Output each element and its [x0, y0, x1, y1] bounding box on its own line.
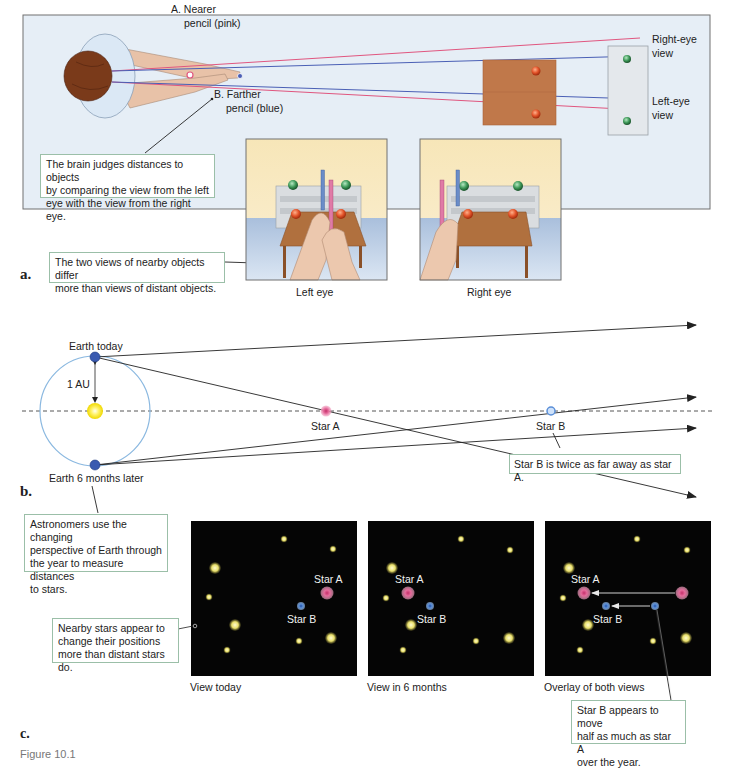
earth-later-icon — [90, 460, 100, 470]
earth-later-label: Earth 6 months later — [49, 472, 144, 485]
callout-line: half as much as star A — [577, 730, 680, 756]
star-b-moves-callout: Star B appears to move half as much as s… — [571, 700, 686, 744]
callout-line: over the year. — [577, 756, 680, 769]
green-ball-icon — [623, 117, 631, 125]
callout-line: more than distant stars do. — [58, 648, 173, 674]
callout-line: eye with the view from the right eye. — [46, 197, 209, 223]
view-6-months-star-a-label: Star A — [395, 573, 424, 586]
view-6-months-caption: View in 6 months — [367, 681, 447, 694]
panel-b-letter: b. — [20, 483, 32, 500]
nearer-pencil-label-line1: A. Nearer — [171, 3, 216, 16]
callout-line: Nearby stars appear to — [58, 622, 173, 635]
au-label: 1 AU — [67, 378, 90, 391]
callout-line: Star B is twice as far away as star A. — [514, 458, 676, 484]
red-ball-icon — [532, 110, 541, 119]
callout-line: perspective of Earth through — [30, 544, 162, 557]
star-a-icon — [321, 406, 332, 417]
view-today-star-a-label: Star A — [314, 573, 343, 586]
left-eye-view-illustration — [246, 139, 387, 280]
farther-pencil-label-line2: pencil (blue) — [226, 102, 283, 115]
two-views-callout: The two views of nearby objects differ m… — [49, 252, 225, 283]
overlay-caption: Overlay of both views — [544, 681, 644, 694]
view-today-caption: View today — [190, 681, 241, 694]
farther-pencil-label-line1: B. Farther — [214, 88, 261, 101]
sky-overlay — [545, 521, 711, 676]
nearer-pencil-label-line2: pencil (pink) — [184, 17, 241, 30]
green-ball-icon — [623, 55, 631, 63]
astronomers-callout: Astronomers use the changing perspective… — [24, 514, 168, 572]
star-b-label: Star B — [536, 420, 565, 433]
callout-line: Astronomers use the changing — [30, 518, 162, 544]
red-ball-icon — [532, 67, 541, 76]
sun-icon — [87, 403, 103, 419]
callout-line: by comparing the view from the left — [46, 184, 209, 197]
callout-line: more than views of distant objects. — [55, 282, 219, 295]
callout-line: to stars. — [30, 583, 162, 596]
earth-today-label: Earth today — [69, 340, 123, 353]
right-eye-view-label-line2: view — [652, 47, 673, 60]
view-6-months-star-b-label: Star B — [417, 613, 446, 626]
figure-caption: Figure 10.1 — [20, 748, 76, 760]
brain-judges-callout: The brain judges distances to objects by… — [40, 154, 215, 198]
farther-pencil-dot — [238, 74, 243, 79]
sky-view-today — [191, 521, 357, 676]
earth-today-icon — [90, 352, 100, 362]
left-eye-view-label-line1: Left-eye — [652, 95, 690, 108]
sky-view-6-months — [368, 521, 534, 676]
callout-line: Star B appears to move — [577, 704, 680, 730]
callout-line: the year to measure distances — [30, 557, 162, 583]
star-a-label: Star A — [311, 420, 340, 433]
right-eye-caption: Right eye — [467, 286, 511, 299]
nearby-stars-callout: Nearby stars appear to change their posi… — [52, 618, 179, 663]
panel-c-artwork — [178, 521, 711, 700]
callout-line: The two views of nearby objects differ — [55, 256, 219, 282]
right-eye-view-label-line1: Right-eye — [652, 33, 697, 46]
right-eye-view-illustration — [420, 139, 561, 280]
overlay-star-a-label: Star A — [571, 573, 600, 586]
left-eye-caption: Left eye — [296, 286, 333, 299]
view-today-star-b-label: Star B — [287, 613, 316, 626]
panel-c-letter: c. — [20, 726, 30, 742]
callout-line: change their positions — [58, 635, 173, 648]
star-b-distance-callout: Star B is twice as far away as star A. — [509, 454, 681, 474]
panel-a-letter: a. — [20, 266, 31, 283]
panel-a-artwork — [23, 15, 710, 280]
overlay-star-b-label: Star B — [593, 613, 622, 626]
nearer-pencil-dot — [187, 72, 193, 78]
callout-line: The brain judges distances to objects — [46, 158, 209, 184]
table-top-view — [483, 60, 556, 125]
star-b-icon — [547, 407, 555, 415]
left-eye-view-label-line2: view — [652, 109, 673, 122]
